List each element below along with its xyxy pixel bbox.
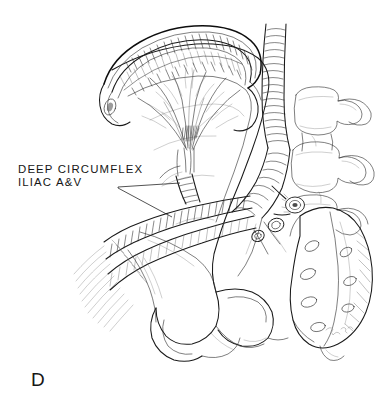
annotation-deep-circumflex-iliac: DEEP CIRCUMFLEXILIAC A&V: [18, 163, 143, 190]
figure-panel-d: DEEP CIRCUMFLEXILIAC A&V D: [0, 0, 385, 404]
annotation-line-2: ILIAC A&V: [18, 176, 82, 188]
annotation-line-1: DEEP CIRCUMFLEX: [18, 163, 143, 175]
panel-letter: D: [31, 369, 45, 391]
anatomical-line-art: [0, 0, 385, 404]
